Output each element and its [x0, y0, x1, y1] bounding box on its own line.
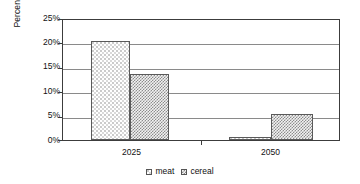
legend-item-cereal: cereal — [181, 167, 213, 176]
plot-area — [62, 19, 340, 141]
legend-label-cereal: cereal — [190, 167, 213, 176]
y-tick-label: 10% — [32, 87, 60, 96]
y-tick-label: 0% — [32, 136, 60, 145]
y-tick-label: 5% — [32, 111, 60, 120]
legend-label-meat: meat — [155, 167, 174, 176]
bar-chart: Percent Difference 25% 20% 15% 10% 5% 0% — [0, 0, 360, 184]
x-tick-label-2025: 2025 — [62, 147, 201, 157]
y-tick-label: 15% — [32, 62, 60, 71]
y-axis-title: Percent Difference — [10, 0, 24, 44]
dark-checker-swatch-icon — [181, 169, 187, 175]
chart-legend: meat cereal — [0, 167, 360, 176]
bar-meat-2050 — [229, 137, 271, 140]
x-tick-label-2050: 2050 — [201, 147, 340, 157]
y-axis-tick-labels: 25% 20% 15% 10% 5% 0% — [30, 0, 60, 184]
legend-item-meat: meat — [146, 167, 174, 176]
x-axis-ticks — [62, 141, 340, 146]
bar-meat-2025 — [91, 41, 130, 141]
bar-cereal-2025 — [130, 74, 169, 140]
light-dotted-swatch-icon — [146, 169, 152, 175]
x-tick-mark — [201, 141, 202, 145]
y-tick-label: 20% — [32, 38, 60, 47]
y-tick-label: 25% — [32, 14, 60, 23]
bar-cereal-2050 — [271, 114, 313, 140]
